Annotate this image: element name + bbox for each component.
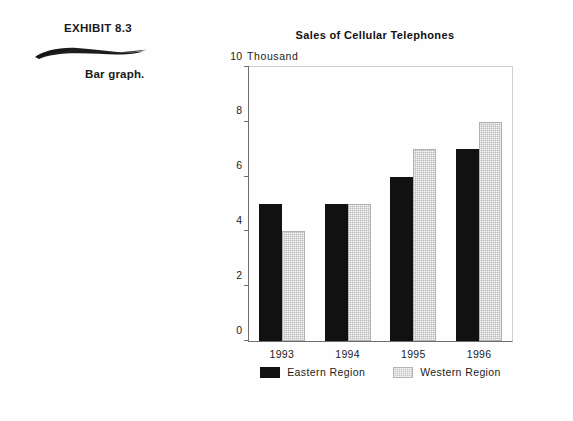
exhibit-label: EXHIBIT 8.3 — [64, 22, 132, 34]
legend-item[interactable]: Eastern Region — [260, 366, 365, 378]
legend-swatch-icon — [260, 367, 280, 378]
bar-western-region-1995[interactable] — [413, 149, 436, 341]
y-axis-tick-label: 8 — [236, 104, 242, 116]
y-axis-tick-label: 2 — [236, 269, 242, 281]
chart-title: Sales of Cellular Telephones — [225, 29, 525, 41]
bar-eastern-region-1994[interactable] — [325, 204, 348, 341]
y-axis-unit-label: Thousand — [247, 50, 299, 62]
bars-layer — [249, 67, 512, 341]
legend-swatch-icon — [393, 367, 413, 378]
brush-stroke-icon — [33, 44, 153, 62]
legend-label: Western Region — [420, 366, 501, 378]
y-axis-tick-label: 0 — [236, 324, 242, 336]
exhibit-page: EXHIBIT 8.3 Bar graph. Sales of Cellular… — [0, 0, 573, 421]
x-axis-tick-label: 1995 — [381, 348, 447, 360]
bar-group — [381, 67, 447, 341]
bar-chart: Sales of Cellular Telephones Thousand 02… — [225, 18, 555, 403]
x-axis-tick-label: 1996 — [446, 348, 512, 360]
bar-group — [446, 67, 512, 341]
bar-eastern-region-1993[interactable] — [259, 204, 282, 341]
plot-area: 0246810 1993199419951996 — [248, 66, 513, 342]
chart-legend: Eastern RegionWestern Region — [248, 366, 513, 378]
exhibit-caption-text: Bar graph. — [85, 68, 145, 80]
y-axis-tick-label: 10 — [230, 50, 242, 62]
legend-item[interactable]: Western Region — [393, 366, 501, 378]
exhibit-caption-block: EXHIBIT 8.3 Bar graph. — [0, 0, 225, 110]
bar-group — [315, 67, 381, 341]
bar-eastern-region-1995[interactable] — [390, 177, 413, 341]
legend-label: Eastern Region — [287, 366, 365, 378]
x-axis-tick-label: 1993 — [249, 348, 315, 360]
bar-western-region-1993[interactable] — [282, 231, 305, 341]
x-axis-tick-label: 1994 — [315, 348, 381, 360]
bar-eastern-region-1996[interactable] — [456, 149, 479, 341]
bar-group — [249, 67, 315, 341]
bar-western-region-1996[interactable] — [479, 122, 502, 341]
y-axis-tick-label: 6 — [236, 159, 242, 171]
bar-western-region-1994[interactable] — [348, 204, 371, 341]
y-axis-tick-label: 4 — [236, 214, 242, 226]
